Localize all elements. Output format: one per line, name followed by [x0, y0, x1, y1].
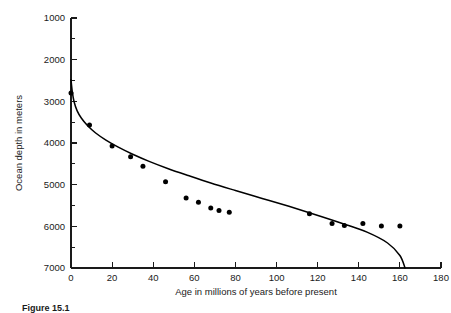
x-tick-label: 40 — [148, 272, 159, 283]
plot-area — [69, 80, 406, 268]
x-axis-tick-labels: 020406080100120140160180 — [68, 272, 449, 283]
y-tick-label: 1000 — [44, 12, 65, 23]
data-point — [227, 210, 232, 215]
data-point — [379, 223, 384, 228]
data-point — [110, 143, 115, 148]
x-tick-label: 100 — [269, 272, 285, 283]
x-tick-label: 120 — [310, 272, 326, 283]
ocean-depth-vs-age-chart: 1000200030004000500060007000 Ocean depth… — [0, 0, 451, 313]
figure-caption: Figure 15.1 — [22, 303, 70, 313]
y-tick-label: 2000 — [44, 54, 65, 65]
y-tick-label: 6000 — [44, 221, 65, 232]
data-point — [307, 211, 312, 216]
x-tick-label: 0 — [68, 272, 73, 283]
x-axis-title: Age in millions of years before present — [175, 286, 337, 297]
x-axis: 020406080100120140160180 Age in millions… — [68, 262, 449, 297]
y-tick-label: 7000 — [44, 262, 65, 273]
data-point — [163, 179, 168, 184]
theoretical-subsidence-curve — [71, 80, 405, 268]
x-tick-label: 60 — [189, 272, 200, 283]
data-point — [87, 123, 92, 128]
x-tick-label: 180 — [433, 272, 449, 283]
data-point — [196, 200, 201, 205]
y-tick-label: 5000 — [44, 179, 65, 190]
data-point — [330, 221, 335, 226]
observed-depth-data-points — [69, 91, 403, 229]
x-tick-label: 20 — [107, 272, 118, 283]
y-tick-label: 3000 — [44, 96, 65, 107]
data-point — [128, 154, 133, 159]
data-point — [184, 196, 189, 201]
x-axis-major-ticks — [71, 262, 441, 268]
y-tick-label: 4000 — [44, 137, 65, 148]
x-tick-label: 160 — [392, 272, 408, 283]
data-point — [208, 206, 213, 211]
y-axis-major-ticks — [71, 18, 77, 268]
data-point — [140, 164, 145, 169]
x-tick-label: 80 — [230, 272, 241, 283]
x-tick-label: 140 — [351, 272, 367, 283]
y-axis: 1000200030004000500060007000 Ocean depth… — [13, 12, 77, 273]
data-point — [342, 223, 347, 228]
data-point — [360, 221, 365, 226]
data-point — [217, 208, 222, 213]
data-point — [397, 223, 402, 228]
figure-container: 1000200030004000500060007000 Ocean depth… — [0, 0, 451, 313]
y-axis-title: Ocean depth in meters — [13, 95, 24, 191]
y-axis-tick-labels: 1000200030004000500060007000 — [44, 12, 65, 273]
data-point — [69, 91, 74, 96]
